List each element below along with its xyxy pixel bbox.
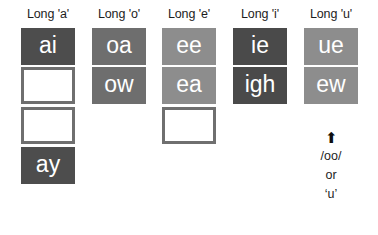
vowel-column-3: Long 'e'eeea [155,0,223,235]
grapheme-label: ue [318,34,344,57]
grapheme-tile[interactable]: ow [92,67,146,104]
grapheme-tile[interactable]: oa [92,28,146,65]
annotation-line: /oo/ [297,150,365,163]
up-arrow-icon: ⬆ [297,130,365,145]
vowel-column-2: Long 'o'oaow [85,0,153,235]
vowel-column-4: Long 'i'ieigh [226,0,294,235]
empty-tile[interactable] [21,107,75,144]
grapheme-tile[interactable]: ue [304,28,358,65]
grapheme-tile[interactable]: ai [21,28,75,65]
column-header: Long 'a' [14,7,82,21]
grapheme-tile[interactable]: ee [162,28,216,65]
vowel-column-5: Long 'u'ueew⬆/oo/or‘u’ [297,0,365,235]
grapheme-label: ew [316,73,345,96]
column-header: Long 'e' [155,7,223,21]
grapheme-label: oa [106,34,132,57]
grapheme-label: ee [176,34,202,57]
empty-tile[interactable] [162,107,216,144]
column-header: Long 'i' [226,7,294,21]
grapheme-tile[interactable]: ea [162,67,216,104]
grapheme-label: ea [176,73,202,96]
grapheme-label: ow [104,73,133,96]
grapheme-label: ie [251,34,269,57]
empty-tile[interactable] [21,67,75,104]
column-header: Long 'o' [85,7,153,21]
column-header: Long 'u' [297,7,365,21]
annotation-line: or [297,169,365,182]
grapheme-tile[interactable]: igh [233,67,287,104]
annotation-line: ‘u’ [297,188,365,201]
grapheme-label: ay [36,153,60,176]
grapheme-tile[interactable]: ew [304,67,358,104]
long-vowel-grapheme-chart: Long 'a'aiayLong 'o'oaowLong 'e'eeeaLong… [0,0,378,235]
grapheme-label: igh [245,73,276,96]
grapheme-tile[interactable]: ie [233,28,287,65]
grapheme-tile[interactable]: ay [21,147,75,184]
vowel-column-1: Long 'a'aiay [14,0,82,235]
grapheme-label: ai [39,34,57,57]
